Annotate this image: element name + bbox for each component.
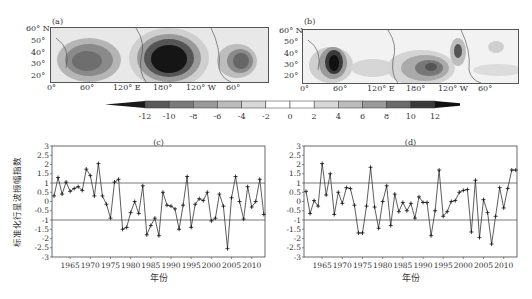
colorbar-segment [338,101,362,108]
map-b-lon-180: 180° [406,84,425,93]
colorbar-label: -2 [262,112,270,121]
map-a-lon-0: 0° [47,83,56,92]
map-b-lat-30: 30° [284,60,298,69]
map-b-lat-60: 60° N [279,26,303,35]
colorbar-segment [314,101,338,108]
map-a-contours [51,28,268,82]
colorbar-label: 6 [360,112,365,121]
y-tick-label: 2.5 [37,151,49,160]
x-tick-label: 2010 [242,261,261,270]
map-b-lon-0: 0° [300,84,309,93]
colorbar-label: -6 [214,112,222,121]
map-a-lon-120e: 120° E [113,83,141,92]
colorbar-segment [290,101,314,108]
y-tick-label: 1.5 [289,169,301,178]
colorbar-label: -4 [238,112,246,121]
x-tick-label: 1965 [61,261,80,270]
map-b-tag: (b) [304,17,315,26]
map-b-lon-120e: 120° E [367,84,395,93]
colorbar-label: 2 [312,112,317,121]
y-tick-label: -1 [42,216,49,225]
colorbar-label: 8 [384,112,389,121]
chart-d: 32.521.510.50-0.5-1-1.5-2-2.5-3196519701… [262,136,532,299]
map-b-lat-50: 50° [284,37,298,46]
x-tick-label: 1980 [373,261,392,270]
colorbar-label: 0 [287,112,292,121]
colorbar-segment [193,101,217,108]
colorbar-label: -8 [189,112,197,121]
colorbar-segment [387,101,411,108]
y-tick-label: -2.5 [35,243,50,252]
x-axis-label: 年份 [150,272,168,283]
plot-frame [304,146,517,257]
map-a-lat-20: 20° [31,71,45,80]
y-tick-label: 2 [44,160,49,169]
map-a-lon-60: 60° [80,83,94,92]
x-tick-label: 1995 [182,261,201,270]
colorbar-label: 12 [430,112,440,121]
map-a-lat-60: 60° N [26,24,50,33]
colorbar-left-arrow [105,101,145,108]
x-tick-label: 1990 [413,261,432,270]
y-tick-label: -3 [294,253,302,262]
plot-frame [52,146,265,257]
y-tick-label: 1.5 [37,169,49,178]
y-axis-label: 标准化行星波振幅指数 [12,157,22,247]
y-tick-label: -1.5 [287,225,302,234]
x-tick-label: 1985 [393,261,412,270]
x-tick-label: 1975 [101,261,120,270]
map-a-tag: (a) [52,17,63,26]
colorbar: -12-10-8-6-4-2024681012 [100,98,460,126]
map-b [302,29,519,84]
colorbar-segment [411,101,435,108]
colorbar-label: 4 [336,112,341,121]
y-tick-label: -2 [294,234,302,243]
y-tick-label: -0.5 [287,206,302,215]
x-tick-label: 1995 [434,261,453,270]
colorbar-label: 10 [406,112,416,121]
map-a-lon-120w: 120° W [186,83,216,92]
y-tick-label: 1 [44,179,49,188]
x-tick-label: 2000 [202,261,221,270]
panel-tag: (c) [153,138,164,147]
map-b-lon-60: 60° [333,84,347,93]
x-axis-label: 年份 [402,272,420,283]
y-tick-label: 1 [296,179,301,188]
map-b-lat-40: 40° [284,49,298,58]
colorbar-segment [145,101,169,108]
colorbar-right-arrow [435,101,460,108]
y-tick-label: -1.5 [35,225,50,234]
y-tick-label: 0 [296,197,301,206]
map-b-contours [303,30,518,83]
y-tick-label: 3 [296,142,301,151]
y-tick-label: -0.5 [35,206,50,215]
x-tick-label: 2000 [454,261,473,270]
x-tick-label: 1965 [313,261,332,270]
map-b-lon-60w: 60° [478,84,492,93]
map-a [50,27,269,83]
map-a-lat-40: 40° [31,48,45,57]
colorbar-segment [242,101,266,108]
colorbar-label: -10 [163,112,176,121]
y-tick-label: -2 [42,234,50,243]
y-tick-label: 0 [44,197,49,206]
y-tick-label: 2 [296,160,301,169]
colorbar-label: -12 [139,112,152,121]
colorbar-segment [218,101,242,108]
x-tick-label: 1970 [333,261,352,270]
x-tick-label: 1985 [141,261,160,270]
panel-tag: (d) [405,138,416,147]
x-tick-label: 2005 [474,261,493,270]
x-tick-label: 1970 [81,261,100,270]
chart-c: 32.521.510.50-0.5-1-1.5-2-2.5-3196519701… [0,136,270,299]
y-tick-label: -1 [294,216,301,225]
map-a-lon-180: 180° [153,83,172,92]
x-tick-label: 2005 [222,261,241,270]
x-tick-label: 2010 [494,261,513,270]
y-tick-label: 0.5 [289,188,301,197]
map-b-lat-20: 20° [284,71,298,80]
colorbar-segment [266,101,290,108]
map-a-lat-50: 50° [31,36,45,45]
colorbar-segment [169,101,193,108]
y-tick-label: 3 [44,142,49,151]
